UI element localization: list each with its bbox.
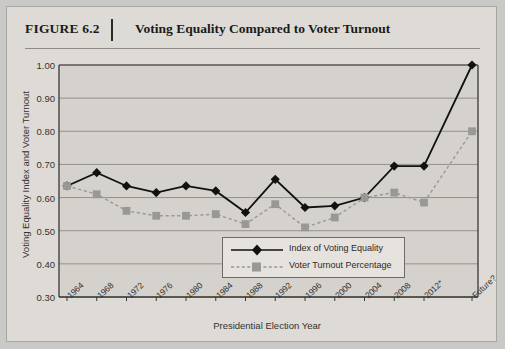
chart-legend: Index of Voting Equality Voter Turnout P… (222, 237, 405, 278)
legend-label-0: Index of Voting Equality (289, 243, 383, 253)
legend-label-1: Voter Turnout Percentage (289, 260, 392, 270)
legend-marker-diamond (229, 242, 285, 258)
y-axis-title: Voting Equality Index and Voter Turnout (20, 75, 31, 275)
y-tick-label: 1.00 (21, 60, 55, 71)
x-axis-ticks: 1964196819721976198019841988199219962000… (7, 293, 498, 343)
legend-item-index-of-voting-equality: Index of Voting Equality (229, 242, 401, 259)
x-axis-title: Presidential Election Year (62, 320, 472, 331)
legend-marker-square (229, 259, 285, 275)
legend-item-voter-turnout-percentage: Voter Turnout Percentage (229, 259, 401, 276)
chart-plot-area: 0.300.400.500.600.700.800.901.00 1964196… (7, 7, 498, 343)
figure-container: FIGURE 6.2 Voting Equality Compared to V… (6, 6, 497, 342)
